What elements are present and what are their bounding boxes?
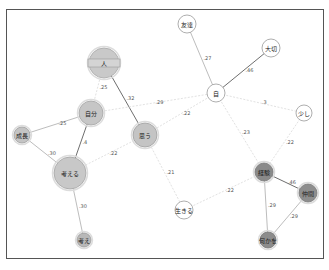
edge-ji-sukoshi [216,93,304,113]
edge-weight-label: .46 [246,67,254,73]
node-nakama[interactable]: 仲間 [298,183,319,204]
node-label: 自 [213,90,219,98]
network-graph: .25.32.29.25.4.30.22.30.22.21.27.46.3.23… [0,0,329,270]
edge-weight-label: .22 [226,187,234,193]
node-sukoshi[interactable]: 少し [296,105,312,121]
node-hito[interactable]: 人 [88,47,121,80]
edge-tomodachi-ji [187,24,216,93]
node-taisetsu[interactable]: 大切 [262,39,280,57]
edge-jibun-ji [91,93,216,113]
edge-weight-label: .25 [100,84,108,90]
node-label: 経験 [258,169,270,177]
node-nanika[interactable]: 何かを [259,231,278,250]
edge-weight-label: .22 [286,139,294,145]
edge-ikiru-keiken [184,172,264,210]
node-label: 大切 [265,45,277,53]
edge-weight-label: .22 [110,150,118,156]
edge-weight-label: .32 [127,95,135,101]
node-label: 考える [61,170,79,178]
edge-omou-ikiru [145,135,184,210]
node-label: 人 [101,60,107,67]
edge-weight-label: .4 [83,139,88,145]
nodes-layer: 人自分思う成長考える考え友達大切自少し生きる経験仲間何かを [13,15,319,250]
node-jibun[interactable]: 自分 [78,100,105,127]
edge-weight-label: .23 [242,129,250,135]
node-label: 成長 [16,132,28,140]
edge-weight-label: .3 [262,99,267,105]
edge-weight-label: .30 [79,203,87,209]
node-kangaeru[interactable]: 考える [53,156,88,191]
node-label: 何かを [259,237,277,245]
node-kangae[interactable]: 考え [76,232,93,249]
node-label: 考え [78,237,90,245]
edge-weight-label: .29 [156,99,164,105]
node-seicho[interactable]: 成長 [13,126,32,145]
edge-weight-label: .27 [204,55,212,61]
edge-weight-label: .25 [59,120,67,126]
node-label: 自分 [85,110,97,118]
node-label: 生きる [175,207,193,214]
node-ikiru[interactable]: 生きる [175,201,193,219]
edge-taisetsu-ji [216,48,271,93]
edge-ji-keiken [216,93,264,172]
node-label: 仲間 [302,190,314,198]
edge-weight-label: .46 [288,179,296,185]
node-ji[interactable]: 自 [207,84,225,102]
node-label: 思う [139,132,151,140]
edge-weight-label: .29 [268,202,276,208]
edges-layer: .25.32.29.25.4.30.22.30.22.21.27.46.3.23… [22,24,308,240]
node-tomodachi[interactable]: 友達 [178,15,196,33]
edge-weight-label: .22 [183,110,191,116]
edge-weight-label: .30 [48,150,56,156]
node-label: 少し [298,110,310,117]
edge-weight-label: .29 [290,213,298,219]
node-omou[interactable]: 思う [132,122,159,149]
node-keiken[interactable]: 経験 [254,162,275,183]
edge-weight-label: .21 [167,169,175,175]
node-label: 友達 [181,21,193,29]
